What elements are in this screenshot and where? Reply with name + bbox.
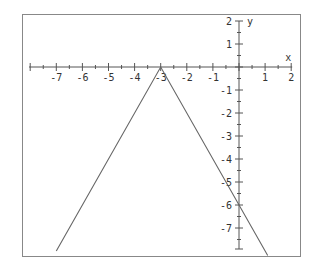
x-tick-label: 2	[288, 72, 294, 83]
y-tick-label: 1	[226, 39, 232, 50]
y-tick-label: -4	[220, 154, 232, 165]
y-tick-label: -2	[220, 108, 232, 119]
x-tick-label: -1	[207, 72, 219, 83]
x-tick-label: -2	[181, 72, 193, 83]
x-tick-label: -5	[102, 72, 114, 83]
chart-canvas: -7-6-5-4-3-2-11221-1-2-3-4-5-6-7xy	[0, 0, 311, 265]
y-tick-label: -6	[220, 200, 232, 211]
plot-frame	[23, 15, 301, 257]
y-tick-label: -1	[220, 85, 232, 96]
x-tick-label: -6	[76, 72, 88, 83]
x-tick-label: -7	[50, 72, 62, 83]
x-axis-label: x	[285, 52, 291, 63]
graph-line	[56, 67, 267, 256]
y-axis-label: y	[247, 16, 253, 27]
y-tick-label: -3	[220, 131, 232, 142]
y-tick-label: -7	[220, 223, 232, 234]
x-tick-label: -4	[129, 72, 141, 83]
y-tick-label: 2	[226, 16, 232, 27]
x-tick-label: 1	[262, 72, 268, 83]
